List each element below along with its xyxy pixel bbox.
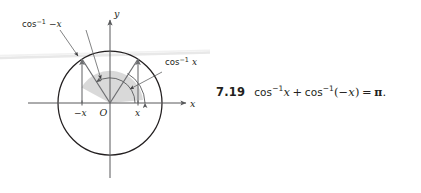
figure-number: 7.19 bbox=[216, 85, 245, 99]
formula-exponent-1: −1 bbox=[272, 84, 283, 93]
tick-label-negative-x: −x bbox=[74, 108, 87, 118]
caption-panel: 7.19 cos−1x+cos−1(−x)=π. bbox=[212, 0, 421, 193]
tick-label-positive-x: x bbox=[135, 108, 140, 118]
y-axis-label: y bbox=[113, 8, 120, 19]
formula-fn-2: cos bbox=[305, 86, 323, 98]
caption-formula: cos−1x+cos−1(−x)=π. bbox=[254, 85, 386, 99]
formula-arg-2: −x bbox=[339, 85, 355, 99]
formula-fn-1: cos bbox=[254, 86, 272, 98]
x-axis-label: x bbox=[190, 98, 196, 109]
arccos-neg-exponent: −1 bbox=[36, 18, 45, 26]
svg-text:cos−1x: cos−1x bbox=[165, 56, 197, 67]
leader-line-negative-label-2 bbox=[60, 30, 78, 56]
figure-panel: x y O −x x cos−1−x cos−1x bbox=[0, 0, 210, 193]
unit-circle-diagram: x y O −x x cos−1−x cos−1x bbox=[0, 0, 210, 193]
origin-label: O bbox=[100, 107, 108, 118]
arccos-pos-exponent: −1 bbox=[179, 56, 188, 64]
arccos-pos-fn: cos bbox=[165, 57, 180, 67]
arccos-neg-arg: −x bbox=[49, 19, 62, 29]
formula-exponent-2: −1 bbox=[323, 84, 334, 93]
annotation-arccos-negative-x: cos−1−x bbox=[22, 18, 62, 29]
arccos-neg-fn: cos bbox=[22, 19, 37, 29]
formula-plus: + bbox=[290, 85, 305, 99]
formula-equals: = bbox=[360, 85, 375, 99]
svg-text:cos−1−x: cos−1−x bbox=[22, 18, 62, 29]
annotation-arccos-positive-x: cos−1x bbox=[165, 56, 197, 67]
formula-paren-close: ) bbox=[355, 85, 360, 99]
figure-caption: 7.19 cos−1x+cos−1(−x)=π. bbox=[216, 85, 386, 99]
formula-period: . bbox=[382, 85, 386, 99]
arccos-pos-arg: x bbox=[192, 57, 197, 67]
figure-page: x y O −x x cos−1−x cos−1x 7.19 bbox=[0, 0, 421, 193]
